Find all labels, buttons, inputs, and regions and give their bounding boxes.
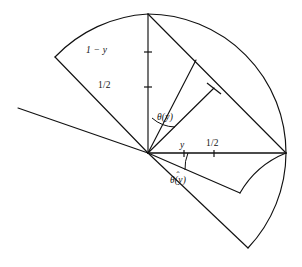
ray-theta-short [148,60,196,153]
ray-lower-lower [148,153,248,248]
label-y-horizontal: y [180,141,184,151]
diagram-canvas [0,0,302,267]
ray-far-left [18,108,148,153]
theta-hat-group: ˆ θ(y) [170,176,186,186]
label-theta-hat: ˆ θ(y) [170,176,186,186]
label-one-minus-y: 1 − y [86,46,107,56]
hat-accent-icon: ˆ [176,171,179,180]
theta-hat-angle-arc [185,153,188,170]
label-theta: θ(y) [157,113,173,123]
figure-root: 1 − y 1/2 y 1/2 θ(y) ˆ θ(y) [0,0,302,267]
ray-lower-upper [148,153,240,193]
label-half-horizontal: 1/2 [206,139,219,149]
inner-arc-lower [240,153,286,193]
ray-upper-left-sector-edge [55,57,148,153]
label-half-vertical: 1/2 [98,81,111,91]
outer-arc-lower [248,153,286,248]
